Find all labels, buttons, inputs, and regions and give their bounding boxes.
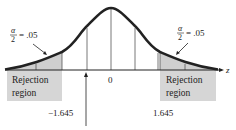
up-arrow-icon: [84, 72, 88, 77]
crit-left-label: −1.645: [48, 108, 74, 118]
normal-curve-diagram: z α 2 = .05 α 2 = .05 Rejection region R…: [0, 0, 236, 130]
alpha-value-right: = .05: [186, 28, 205, 38]
left-region-line2: region: [12, 88, 37, 98]
zero-label: 0: [108, 75, 113, 85]
alpha-den-right: 2: [178, 33, 182, 42]
alpha-den-left: 2: [11, 35, 15, 44]
axis-arrow-icon: [219, 68, 224, 72]
alpha-num-right: α: [178, 24, 183, 33]
crit-right-label: 1.645: [153, 108, 174, 118]
right-region-line1: Rejection: [166, 75, 203, 85]
alpha-num-left: α: [11, 26, 16, 35]
axis-label: z: [225, 65, 230, 75]
alpha-value-left: = .05: [19, 30, 38, 40]
left-region-line1: Rejection: [12, 75, 49, 85]
right-region-line2: region: [166, 88, 191, 98]
